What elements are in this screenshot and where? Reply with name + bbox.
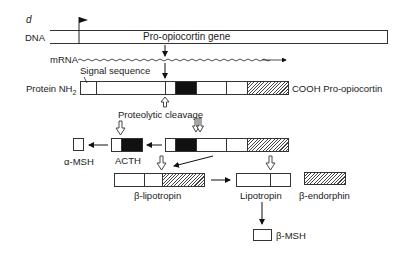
hollow-up-arrow-icon bbox=[161, 97, 169, 107]
lipotropin-cleavage-arrow-icon bbox=[266, 156, 275, 170]
blp-cleavage-arrow-icon bbox=[157, 156, 166, 170]
diagram-lines bbox=[0, 0, 402, 260]
transcription-start-flag-icon bbox=[79, 17, 88, 44]
acth-cleavage-arrow-icon bbox=[116, 121, 125, 135]
mrna-wave bbox=[78, 59, 270, 61]
to-beta-lipotropin-arrow-icon bbox=[174, 156, 213, 166]
double-cleavage-arrow-icon bbox=[193, 118, 204, 132]
